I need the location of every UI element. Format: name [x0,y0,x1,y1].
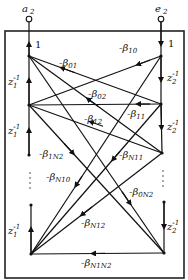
svg-text:1: 1 [13,231,17,239]
input-label: a2 [22,3,35,16]
svg-text:1: 1 [13,82,17,90]
delay-right-1: z-1 2 [166,70,179,86]
ellipsis-right [162,170,163,186]
system-box [5,31,184,278]
svg-text:2: 2 [171,227,177,235]
edge-label-b11: -β11 [127,108,145,121]
ellipsis-left [29,172,30,188]
edge-label-b0N2: -β0N2 [129,186,154,199]
edge-label-b02: -β02 [88,88,107,101]
output-gain-label: 1 [168,38,174,49]
edge-label-bN10: -βN10 [46,171,71,184]
signal-flow-diagram: a2 e2 [0,0,188,280]
delay-right-3: z-1 2 [166,219,179,235]
svg-text:2: 2 [171,127,177,135]
delay-right-2: z-1 2 [166,119,179,135]
edge-label-b1N2: -β1N2 [39,148,64,161]
edge-label-bN1N2: -βN1N2 [81,257,112,270]
svg-text:2: 2 [171,78,177,86]
edge-label-b12: -β12 [84,113,103,126]
output-terminal [158,16,164,22]
edge-label-b10: -β10 [119,42,138,55]
svg-text:1: 1 [13,131,17,139]
output-label: e2 [155,3,168,16]
input-terminal [26,16,32,22]
delay-left-3: z-1 1 [7,223,20,239]
input-gain-label: 1 [35,39,41,50]
edge-label-bN12: -βN12 [81,217,106,230]
delay-left-2: z-1 1 [7,123,20,139]
delay-left-1: z-1 1 [7,74,20,90]
edge-label-bN11: -βN11 [119,149,143,162]
